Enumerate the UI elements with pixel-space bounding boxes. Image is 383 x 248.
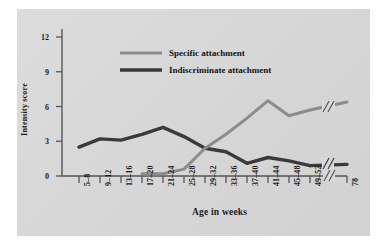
x-tick-label-11: 49–52 [314,166,323,187]
figure: 12 9 6 3 0 5–8 9–12 13–16 17–20 21–24 25… [0,0,383,248]
x-tick-label-1: 9–12 [104,170,113,186]
x-tick-label-10: 45–48 [293,166,302,187]
y-axis-ticks [56,37,62,176]
y-tick-label-0: 0 [29,172,49,181]
series-break-icon-specific [322,100,335,112]
x-tick-label-5: 25–28 [188,166,197,187]
x-tick-label-3: 17–20 [146,166,155,187]
y-tick-label-12: 12 [29,33,49,42]
x-tick-label-0: 5–8 [83,174,92,186]
series-line-specific-attachment [142,101,310,174]
x-tick-label-8: 37–40 [251,166,260,187]
chart-panel: 12 9 6 3 0 5–8 9–12 13–16 17–20 21–24 25… [17,9,370,236]
x-tick-label-12: 78 [351,178,360,186]
x-tick-label-7: 33–36 [230,166,239,187]
x-tick-label-6: 29–32 [209,166,218,187]
legend-label-indiscriminate-attachment: Indiscriminate attachment [169,65,271,75]
x-axis-break-icon [323,170,335,181]
line-chart-plot [17,9,370,236]
y-tick-label-6: 6 [29,103,49,112]
x-tick-label-9: 41–44 [272,166,281,187]
legend-label-specific-attachment: Specific attachment [169,48,245,58]
x-tick-label-2: 13–16 [125,166,134,187]
y-axis-title: Intensity score [20,83,29,136]
y-tick-label-3: 3 [29,137,49,146]
series-break-icon-indiscriminate [322,158,334,170]
x-axis-title: Age in weeks [192,207,247,217]
x-tick-label-4: 21–24 [167,166,176,187]
y-tick-label-9: 9 [29,68,49,77]
